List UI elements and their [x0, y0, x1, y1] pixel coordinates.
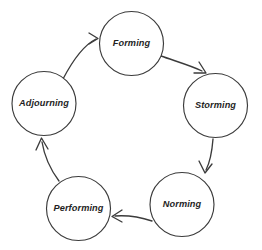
cycle-diagram-canvas: Forming Storming Norming Performing Adjo… — [0, 0, 262, 250]
arrow-path — [42, 142, 59, 181]
arrow-path — [206, 139, 213, 170]
stage-label-storming: Storming — [195, 100, 236, 110]
stage-label-adjourning: Adjourning — [18, 98, 69, 108]
arrow-adjourning-to-forming — [63, 33, 98, 79]
arrow-forming-to-storming — [161, 56, 206, 73]
arrow-norming-to-performing — [112, 210, 152, 222]
arrow-performing-to-adjourning — [36, 138, 59, 181]
stage-node-storming[interactable]: Storming — [184, 74, 248, 138]
arrow-head-icon — [194, 62, 206, 73]
stage-node-performing[interactable]: Performing — [47, 177, 111, 241]
stage-node-forming[interactable]: Forming — [100, 12, 164, 76]
arrow-path — [161, 56, 202, 71]
cycle-diagram: Forming Storming Norming Performing Adjo… — [0, 0, 262, 250]
stage-label-forming: Forming — [113, 38, 151, 48]
arrow-path — [63, 39, 96, 79]
arrow-storming-to-norming — [199, 139, 213, 173]
arrow-path — [115, 216, 152, 221]
stage-label-norming: Norming — [163, 199, 202, 209]
stage-label-performing: Performing — [53, 203, 103, 213]
stage-node-adjourning[interactable]: Adjourning — [12, 72, 76, 136]
arrow-head-icon — [199, 161, 212, 173]
stage-node-norming[interactable]: Norming — [150, 173, 214, 237]
